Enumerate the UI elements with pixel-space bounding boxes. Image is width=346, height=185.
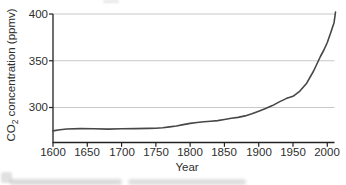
x-tick-label-1800: 1800 <box>177 146 203 159</box>
x-tick-label-1900: 1900 <box>246 146 272 159</box>
co2-curve <box>53 12 336 131</box>
y-tick-label-400: 400 <box>14 7 48 21</box>
gridlines <box>53 14 335 108</box>
x-tick-label-1950: 1950 <box>280 146 306 159</box>
x-tick-label-1600: 1600 <box>40 146 66 159</box>
axes <box>49 14 335 147</box>
y-tick-label-350: 350 <box>14 54 48 68</box>
y-axis-title: CO2 concentration (ppmv) <box>4 0 18 150</box>
x-tick-label-2000: 2000 <box>314 146 340 159</box>
x-tick-label-1750: 1750 <box>143 146 169 159</box>
x-tick-label-1850: 1850 <box>211 146 237 159</box>
co2-concentration-chart: CO2 concentration (ppmv) 400 350 300 160… <box>0 0 346 185</box>
y-axis-title-subscript: 2 <box>10 120 20 125</box>
x-axis-title: Year <box>175 161 198 174</box>
y-tick-label-300: 300 <box>14 100 48 114</box>
x-tick-label-1700: 1700 <box>109 146 135 159</box>
y-axis-title-prefix: CO <box>5 124 17 141</box>
x-tick-label-1650: 1650 <box>74 146 100 159</box>
